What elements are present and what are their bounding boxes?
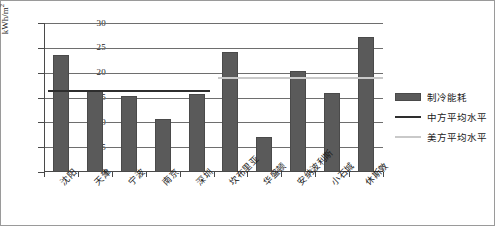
- legend-swatch: [395, 136, 421, 138]
- legend-item-label: 制冷能耗: [427, 90, 467, 104]
- plot-frame: [44, 23, 383, 172]
- legend-swatch: [395, 93, 421, 101]
- legend-light-line-icon: [395, 131, 421, 143]
- plot-area: [44, 23, 383, 172]
- chart-legend: 制冷能耗中方平均水平美方平均水平: [395, 87, 491, 147]
- legend-bar-swatch-icon: [395, 91, 421, 103]
- legend-item-2[interactable]: 美方平均水平: [395, 127, 491, 147]
- y-axis-title-text: kWh/m2: [0, 4, 10, 34]
- legend-item-label: 美方平均水平: [427, 130, 487, 144]
- legend-swatch: [395, 116, 421, 118]
- x-axis-tick-mark: [44, 172, 45, 177]
- legend-item-0[interactable]: 制冷能耗: [395, 87, 491, 107]
- chart-figure: kWh/m2 051015202530 沈阳天津宁波南京深圳坎布里亚华盛顿安纳波…: [0, 0, 495, 226]
- legend-dark-line-icon: [395, 111, 421, 123]
- y-axis-unit-exponent: 2: [0, 4, 5, 7]
- legend-item-1[interactable]: 中方平均水平: [395, 107, 491, 127]
- legend-item-label: 中方平均水平: [427, 110, 487, 124]
- y-axis-title: kWh/m2: [0, 0, 10, 59]
